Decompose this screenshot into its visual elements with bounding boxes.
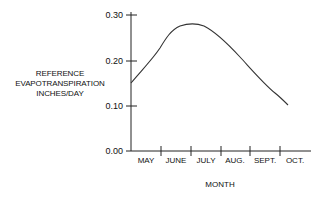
x-tick-label-oct: OCT. — [275, 156, 315, 166]
plot-area — [0, 0, 325, 200]
evapotranspiration-curve — [131, 24, 288, 105]
x-axis-title: MONTH — [190, 180, 250, 190]
